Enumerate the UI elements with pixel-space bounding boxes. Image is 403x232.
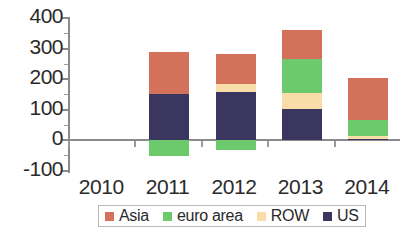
bar-group-2010[interactable]	[149, 14, 189, 174]
bar-segment-2010-Asia	[149, 52, 189, 94]
legend-item-US[interactable]: US	[323, 208, 359, 224]
legend-swatch-icon	[163, 212, 172, 221]
bar-segment-2012-Asia	[282, 30, 322, 59]
bar-group-2011[interactable]	[216, 14, 256, 174]
legend-label: ROW	[271, 208, 309, 224]
y-tick-label-300: 300	[3, 35, 63, 59]
bar-segment-2010-US	[149, 94, 189, 140]
bar-segment-2011-Asia	[216, 54, 256, 84]
bar-segment-2012-euro-area	[282, 59, 322, 93]
bar-segment-2013-euro-area	[348, 120, 388, 136]
x-tick-label-2013: 2013	[265, 175, 335, 199]
legend-swatch-icon	[257, 212, 266, 221]
bar-segment-2013-US	[348, 139, 388, 140]
x-tick-label-2014: 2014	[332, 175, 402, 199]
legend-swatch-icon	[105, 212, 114, 221]
bar-group-2013[interactable]	[348, 14, 388, 174]
legend-label: euro area	[177, 208, 243, 224]
bar-segment-2012-ROW	[282, 93, 322, 108]
legend-label: US	[337, 208, 359, 224]
legend-item-euro-area[interactable]: euro area	[163, 208, 243, 224]
stacked-bar-chart: 4003002001000-100 20102011201220132014 A…	[0, 0, 403, 232]
y-tick-label-0: 0	[3, 126, 63, 150]
y-tick-label--100: -100	[3, 157, 63, 181]
y-tick-label-100: 100	[3, 96, 63, 120]
bar-segment-2010-euro-area	[149, 140, 189, 156]
bar-group-2012[interactable]	[282, 14, 322, 174]
x-tick-label-2011: 2011	[133, 175, 203, 199]
legend-item-ROW[interactable]: ROW	[257, 208, 309, 224]
legend-item-Asia[interactable]: Asia	[105, 208, 149, 224]
bar-segment-2013-ROW	[348, 136, 388, 139]
x-tick-label-2010: 2010	[66, 175, 136, 199]
x-tick-label-2012: 2012	[199, 175, 269, 199]
plot-area	[68, 14, 398, 174]
legend-label: Asia	[119, 208, 149, 224]
bar-segment-2012-US	[282, 109, 322, 140]
bar-segment-2011-ROW	[216, 84, 256, 92]
y-tick-label-200: 200	[3, 65, 63, 89]
legend-swatch-icon	[323, 212, 332, 221]
y-tick-label-400: 400	[3, 4, 63, 28]
chart-legend: Asiaeuro areaROWUS	[98, 205, 366, 227]
bar-segment-2013-Asia	[348, 78, 388, 120]
bar-segment-2011-US	[216, 92, 256, 140]
bar-segment-2011-euro-area	[216, 140, 256, 150]
